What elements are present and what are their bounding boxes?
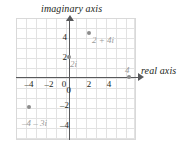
x-tick-label-4: 4 xyxy=(107,80,112,89)
point-label-minus4-minus3i: –4 – 3i xyxy=(22,119,47,128)
imaginary-axis-title: imaginary axis xyxy=(41,3,102,14)
y-tick-label-0: 0 xyxy=(62,86,71,95)
point-label-2i: 2i xyxy=(70,60,77,69)
y-tick-label-minus2: –2 xyxy=(58,101,69,110)
y-tick-label-2: 2 xyxy=(58,53,67,62)
point-label-2-plus-4i: 2 + 4i xyxy=(92,36,114,45)
point-marker-minus4-minus3i xyxy=(27,105,31,109)
y-tick-label-4: 4 xyxy=(58,33,67,42)
real-axis-line xyxy=(16,77,140,78)
imaginary-axis-line xyxy=(69,20,70,140)
point-marker-2-plus-4i xyxy=(87,31,91,35)
point-label-4: 4 xyxy=(125,66,130,75)
real-axis-title: real axis xyxy=(141,65,176,76)
y-tick-label-minus4: –4 xyxy=(58,121,69,130)
x-tick-label-2: 2 xyxy=(87,80,92,89)
x-tick-label-minus2: –2 xyxy=(45,80,54,89)
point-marker-4 xyxy=(127,75,131,79)
complex-plane-figure: imaginary axis real axis –4 –2 0 2 4 4 2… xyxy=(0,0,181,153)
real-axis-arrowhead-icon xyxy=(138,73,144,81)
x-tick-label-minus4: –4 xyxy=(25,80,34,89)
imaginary-axis-arrowhead-icon xyxy=(66,15,74,21)
